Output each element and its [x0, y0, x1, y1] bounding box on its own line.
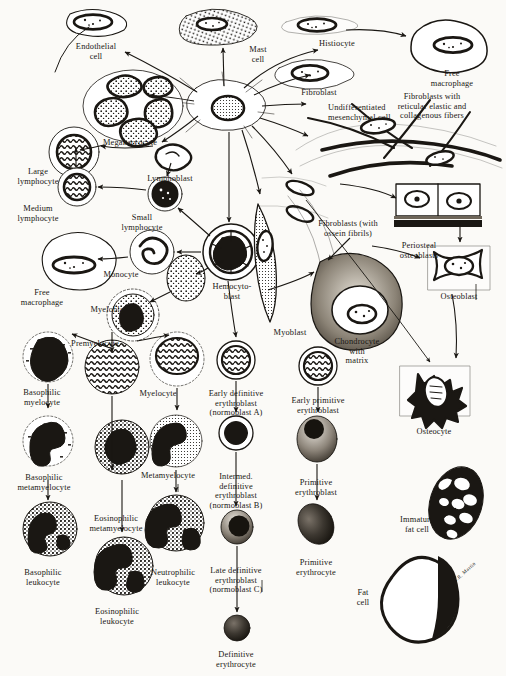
cell-lymphoblast — [156, 144, 191, 170]
cell-megakaryocyte — [83, 70, 183, 146]
cell-primitive-erythrocyte — [291, 497, 341, 550]
cell-definitive-erythrocyte — [224, 615, 250, 641]
cell-early-primitive-erythroblast — [299, 347, 337, 385]
cell-mast — [179, 9, 257, 45]
cell-fibroblast — [275, 59, 354, 89]
figure-canvas: Endothelial cellMast cellHistiocyteFree … — [0, 0, 506, 676]
cell-primitive-erythroblast — [297, 416, 337, 462]
cell-myeloblast-lower — [107, 289, 159, 341]
cell-basophilic-myelocyte — [23, 332, 73, 382]
cell-hemocytoblast — [203, 224, 259, 280]
cell-eosinophilic-metamyelocyte — [95, 420, 149, 474]
cell-intermed-definitive-erythroblast — [219, 416, 253, 450]
cell-endothelial — [55, 10, 127, 73]
cell-free-macrophage-left — [42, 232, 116, 290]
cell-neutrophilic-leukocyte — [145, 495, 204, 551]
cell-undifferentiated-mesenchymal — [176, 72, 274, 138]
cell-periosteal-osteoblasts — [394, 184, 482, 227]
cell-small-lymphocyte — [148, 177, 182, 211]
cell-myoblast — [254, 204, 276, 322]
cell-osteoblast — [428, 246, 490, 290]
cell-basophilic-leukocyte — [23, 502, 77, 556]
cell-metamyelocyte — [150, 415, 202, 467]
cell-osteocyte — [400, 366, 470, 428]
cell-myeloblast — [167, 255, 205, 301]
cell-histiocyte — [281, 16, 357, 34]
cell-immature-fat — [420, 460, 492, 546]
cell-monocyte — [130, 230, 174, 274]
cell-myelocyte — [150, 332, 204, 386]
cell-fat — [381, 556, 458, 642]
cell-eosinophilic-leukocyte — [94, 537, 153, 595]
cell-medium-lymphocyte — [58, 168, 96, 206]
cell-late-definitive-erythroblast — [221, 510, 253, 544]
cell-chondrocyte-with-matrix — [311, 253, 402, 350]
cell-differentiation-illustration — [0, 0, 506, 676]
cell-basophilic-metamyelocyte — [23, 416, 73, 466]
cell-free-macrophage-top — [411, 20, 487, 73]
cell-early-definitive-erythroblast — [217, 341, 255, 379]
